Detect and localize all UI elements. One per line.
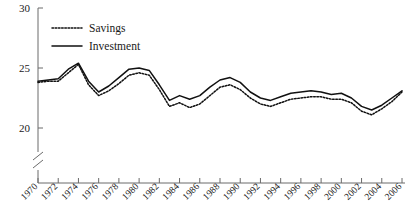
x-tick-label: 1992 [241, 181, 262, 202]
legend-label-investment: Investment [89, 40, 141, 52]
x-tick-label: 1976 [80, 181, 101, 202]
x-tick-label: 1994 [262, 181, 283, 202]
x-tick-label: 2004 [363, 181, 384, 202]
x-tick-label: 1974 [59, 181, 80, 202]
x-tick-label: 2006 [383, 181, 404, 202]
x-tick-label: 1988 [201, 181, 222, 202]
legend-label-savings: Savings [89, 22, 126, 35]
chart-legend: SavingsInvestment [52, 22, 141, 52]
x-tick-label: 1980 [120, 181, 141, 202]
x-axis: 1970197219741976197819801982198419861988… [19, 178, 405, 202]
x-tick-label: 1996 [282, 181, 303, 202]
y-tick-label: 30 [19, 2, 31, 14]
x-tick-label: 1998 [302, 181, 323, 202]
x-tick-label: 1984 [160, 181, 181, 202]
x-tick-label: 1982 [140, 181, 161, 202]
y-tick-label: 25 [19, 62, 31, 74]
x-tick-label: 1978 [100, 181, 121, 202]
data-series-group [38, 63, 402, 115]
x-tick-label: 1972 [39, 181, 60, 202]
chart-container: 202530 197019721974197619781980198219841… [0, 0, 412, 217]
y-axis: 202530 [19, 2, 43, 183]
x-tick-label: 1990 [221, 181, 242, 202]
y-tick-label: 20 [19, 122, 31, 134]
x-tick-label: 1970 [19, 181, 40, 202]
series-line-savings [38, 64, 402, 114]
savings-investment-line-chart: 202530 197019721974197619781980198219841… [0, 0, 412, 217]
x-tick-label: 2000 [322, 181, 343, 202]
x-tick-label: 2002 [342, 181, 363, 202]
x-tick-label: 1986 [181, 181, 202, 202]
